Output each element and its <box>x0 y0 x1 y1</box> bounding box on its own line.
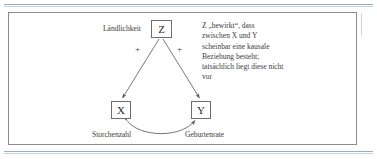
node-y-caption: Geburtenrate <box>185 131 224 139</box>
page-rule-bottom-secondary <box>4 153 373 154</box>
explanatory-note: Z „bewirkt“, dass zwischen X und Y schei… <box>202 21 284 83</box>
figure-frame <box>8 12 357 145</box>
figure-page: Z X Y Ländlichkeit Storchenzahl Geburten… <box>0 0 377 159</box>
page-rule-top-secondary <box>4 6 373 7</box>
edge-sign-z-to-y: + <box>177 45 182 54</box>
page-rule-bottom <box>4 151 373 152</box>
node-x: X <box>111 101 131 119</box>
node-z: Z <box>151 20 172 38</box>
node-y: Y <box>191 101 211 119</box>
page-rule-top <box>4 4 373 5</box>
node-z-label: Z <box>158 24 165 35</box>
node-z-caption: Ländlichkeit <box>103 25 141 33</box>
margin-tick <box>361 14 362 36</box>
edge-sign-z-to-x: + <box>135 45 140 54</box>
node-x-label: X <box>117 105 125 116</box>
node-y-label: Y <box>197 105 205 116</box>
node-x-caption: Storchenzahl <box>92 131 131 139</box>
